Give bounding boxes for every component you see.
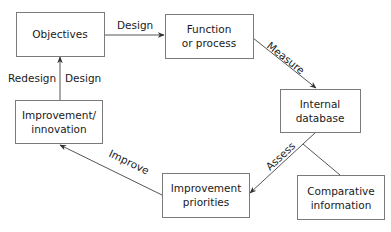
node-innovation-label-line2: innovation (31, 123, 86, 135)
node-comparative-information: Comparative information (298, 176, 385, 220)
edge-redesign-label: Redesign (8, 72, 56, 84)
node-objectives: Objectives (17, 13, 105, 57)
edge-assess-label: Assess (263, 140, 297, 173)
node-function-label-line2: or process (182, 37, 236, 49)
node-objectives-label: Objectives (32, 28, 87, 40)
node-improvement-innovation: Improvement/ innovation (16, 101, 103, 144)
node-priorities-label-line2: priorities (183, 196, 230, 208)
node-priorities-label-line1: Improvement (171, 182, 242, 194)
edge-design-label: Design (117, 19, 153, 31)
node-comparative-label-line2: information (311, 199, 372, 211)
edge-measure-label: Measure (265, 39, 307, 76)
node-improvement-priorities: Improvement priorities (163, 174, 250, 218)
node-innovation-label-line1: Improvement/ (22, 109, 97, 121)
edge-comparative-link (303, 144, 340, 175)
node-internal-db-label-line2: database (296, 112, 345, 124)
node-function-or-process: Function or process (166, 15, 254, 59)
edge-redesign-design-label: Design (65, 72, 101, 84)
edge-improve-label: Improve (107, 147, 151, 177)
improvement-cycle-diagram: Design Measure Assess Improve Redesign D… (0, 0, 391, 232)
node-internal-db-label-line1: Internal (300, 98, 340, 110)
node-function-label-line1: Function (187, 23, 232, 35)
node-internal-database: Internal database (281, 90, 361, 133)
node-comparative-label-line1: Comparative (307, 185, 375, 197)
